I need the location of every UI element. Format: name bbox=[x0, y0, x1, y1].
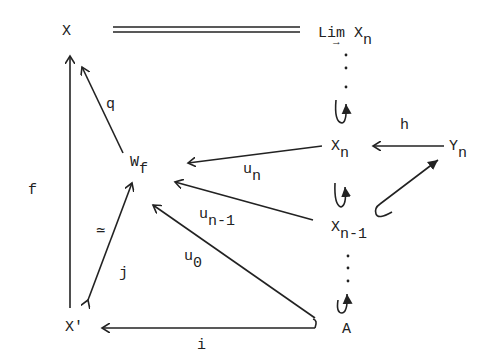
edge-label-i: i bbox=[197, 338, 206, 353]
edge-label-h: h bbox=[400, 118, 409, 133]
node-a: A bbox=[342, 322, 351, 337]
node-x-prime: X' bbox=[65, 320, 83, 335]
commutative-diagram: X Lim Xn → Wf Xn Yn Xn-1 X' A f q h un u… bbox=[0, 0, 501, 355]
node-yn: Yn bbox=[449, 139, 467, 154]
edge-label-j: j bbox=[119, 266, 128, 281]
edge-label-f: f bbox=[28, 183, 37, 198]
direct-limit-arrow: → bbox=[333, 37, 340, 48]
edge-label-u0: u0 bbox=[184, 249, 202, 264]
node-xn: Xn bbox=[331, 139, 349, 154]
node-x: X bbox=[62, 24, 71, 39]
edge-label-un: un bbox=[243, 162, 261, 177]
node-xn-1: Xn-1 bbox=[331, 220, 367, 235]
node-wf: Wf bbox=[130, 155, 148, 170]
edge-label-equivalence: ≃ bbox=[96, 224, 105, 239]
edge-label-un-1: un-1 bbox=[199, 207, 235, 222]
node-lim-xn: Lim Xn bbox=[318, 26, 372, 41]
vertical-dots bbox=[345, 54, 350, 283]
edge-label-q: q bbox=[106, 97, 115, 112]
